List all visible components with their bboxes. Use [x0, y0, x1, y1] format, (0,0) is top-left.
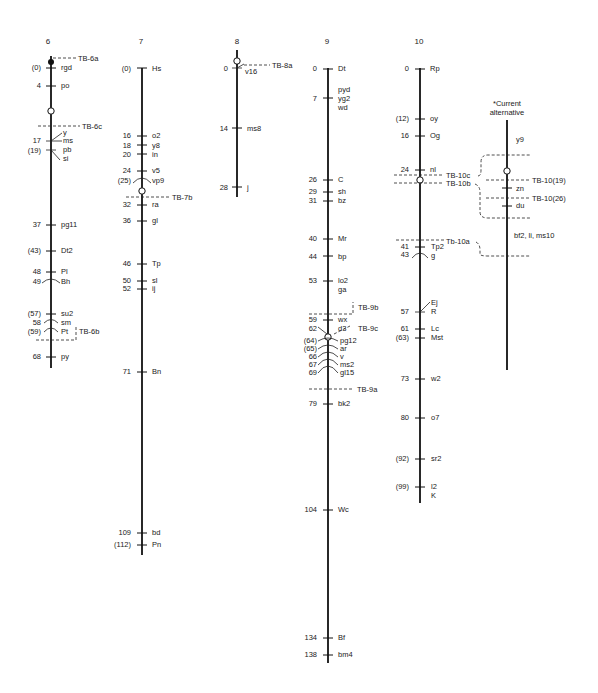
breakpoint-tb-9c: TB-9c: [358, 324, 378, 333]
svg-text:0: 0: [405, 64, 409, 73]
chromosome-10-label: 10: [415, 37, 424, 46]
svg-text:bf2, li, ms10: bf2, li, ms10: [514, 231, 554, 240]
svg-text:61: 61: [401, 324, 409, 333]
svg-text:46: 46: [123, 259, 131, 268]
svg-text:o7: o7: [431, 413, 439, 422]
svg-text:48: 48: [33, 267, 41, 276]
svg-text:134: 134: [304, 633, 317, 642]
current-alternative: *Current alternative y9 TB-10(19) zn TB-…: [475, 99, 566, 370]
breakpoint-tb-9b: TB-9b: [358, 303, 378, 312]
breakpoint-tb-6a: TB-6a: [78, 54, 99, 63]
svg-text:69: 69: [309, 368, 317, 377]
chromosome-9: 9 0 Dt 7 pyd yg2 wd 26 C 29 sh 31 bz 40 …: [304, 37, 379, 663]
svg-text:R: R: [431, 307, 437, 316]
breakpoint-tb-10a: Tb-10a: [446, 237, 471, 246]
svg-text:(25): (25): [118, 176, 132, 185]
svg-text:sh: sh: [338, 187, 346, 196]
svg-text:po: po: [61, 81, 69, 90]
svg-text:si: si: [63, 154, 69, 163]
svg-text:Tp: Tp: [152, 259, 161, 268]
svg-text:(0): (0): [32, 63, 42, 72]
svg-text:Pn: Pn: [152, 540, 161, 549]
svg-text:62: 62: [309, 324, 317, 333]
svg-text:Pl: Pl: [61, 267, 68, 276]
svg-text:57: 57: [401, 307, 409, 316]
svg-text:16: 16: [123, 131, 131, 140]
svg-text:Dt2: Dt2: [61, 246, 73, 255]
svg-text:0: 0: [313, 64, 317, 73]
svg-text:53: 53: [309, 276, 317, 285]
svg-text:16: 16: [401, 131, 409, 140]
svg-text:52: 52: [123, 284, 131, 293]
chromosome-6-label: 6: [46, 37, 51, 46]
svg-text:104: 104: [304, 505, 317, 514]
breakpoint-tb-7b: TB-7b: [172, 193, 192, 202]
svg-text:sm: sm: [61, 318, 71, 327]
svg-text:ij: ij: [152, 284, 156, 293]
svg-text:ms8: ms8: [247, 124, 261, 133]
svg-text:ra: ra: [152, 200, 159, 209]
svg-text:C: C: [338, 175, 344, 184]
svg-text:ga: ga: [338, 285, 347, 294]
svg-text:gl15: gl15: [340, 368, 354, 377]
svg-text:pb: pb: [63, 145, 71, 154]
svg-text:Bh: Bh: [61, 277, 70, 286]
svg-text:Lc: Lc: [431, 324, 439, 333]
svg-text:Og: Og: [430, 131, 440, 140]
svg-text:Pt: Pt: [61, 327, 69, 336]
svg-text:sr2: sr2: [431, 454, 441, 463]
svg-text:bk2: bk2: [338, 399, 350, 408]
alternative-title-line2: alternative: [490, 108, 525, 117]
svg-text:vp9: vp9: [152, 176, 164, 185]
svg-text:58: 58: [33, 318, 41, 327]
breakpoint-tb-10-19: TB-10(19): [532, 176, 566, 185]
svg-text:v5: v5: [152, 166, 160, 175]
svg-text:138: 138: [304, 650, 317, 659]
svg-text:24: 24: [401, 165, 409, 174]
svg-text:py: py: [61, 352, 69, 361]
chromosome-7-label: 7: [139, 37, 144, 46]
svg-text:37: 37: [33, 220, 41, 229]
chromosome-6: 6 TB-6a (0) rgd 4 po TB-6c 17 y ms (19) …: [28, 37, 103, 368]
svg-text:bm4: bm4: [338, 650, 353, 659]
svg-text:su2: su2: [61, 309, 73, 318]
chromosome-10: 10 0 Rp (12) oy 16 Og 24 nl TB-10c TB-10…: [394, 37, 471, 503]
svg-text:14: 14: [220, 124, 228, 133]
genetic-map: 6 TB-6a (0) rgd 4 po TB-6c 17 y ms (19) …: [0, 0, 598, 693]
breakpoint-tb-6c: TB-6c: [82, 122, 102, 131]
svg-text:(92): (92): [396, 454, 410, 463]
svg-text:pg11: pg11: [61, 220, 77, 229]
svg-text:bd: bd: [152, 528, 160, 537]
breakpoint-tb-10-26: TB-10(26): [532, 194, 566, 203]
svg-text:44: 44: [309, 252, 317, 261]
svg-text:(112): (112): [114, 540, 131, 549]
svg-text:w2: w2: [430, 374, 441, 383]
svg-text:y9: y9: [516, 135, 524, 144]
svg-text:49: 49: [33, 277, 41, 286]
svg-text:lo2: lo2: [338, 276, 348, 285]
svg-text:(12): (12): [396, 114, 410, 123]
svg-text:Wc: Wc: [338, 505, 349, 514]
svg-text:K: K: [431, 491, 436, 500]
svg-text:nl: nl: [430, 165, 436, 174]
centromere-icon: [417, 177, 423, 183]
svg-text:Hs: Hs: [152, 64, 161, 73]
chromosome-8-label: 8: [235, 37, 240, 46]
svg-text:26: 26: [309, 175, 317, 184]
svg-text:7: 7: [313, 94, 317, 103]
alternative-title-line1: *Current: [493, 99, 522, 108]
svg-text:29: 29: [309, 187, 317, 196]
svg-text:bp: bp: [338, 252, 346, 261]
svg-text:l2: l2: [431, 482, 437, 491]
svg-text:Bn: Bn: [152, 367, 161, 376]
centromere-icon: [139, 188, 145, 194]
svg-text:109: 109: [118, 528, 131, 537]
svg-text:79: 79: [309, 399, 317, 408]
svg-text:du: du: [516, 201, 524, 210]
svg-text:Dt: Dt: [338, 64, 346, 73]
svg-text:oy: oy: [430, 114, 438, 123]
svg-text:Tp2: Tp2: [431, 242, 444, 251]
svg-text:32: 32: [123, 200, 131, 209]
svg-text:73: 73: [401, 374, 409, 383]
svg-text:y8: y8: [152, 141, 160, 150]
